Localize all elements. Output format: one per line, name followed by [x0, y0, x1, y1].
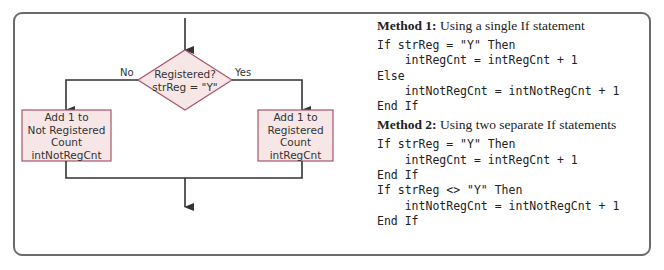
left-process-text: Add 1 to Not Registered Count intNotRegC… [22, 111, 111, 161]
merge-line [66, 161, 302, 178]
code-line: intNotRegCnt = intNotRegCnt + 1 [377, 84, 647, 99]
left-process-line-1: Add 1 to [22, 111, 111, 124]
right-process-text: Add 1 to Registered Count intRegCnt [258, 111, 333, 161]
left-process-line-2: Not Registered [22, 124, 111, 137]
yes-label: Yes [235, 67, 251, 78]
code-line: End If [377, 168, 647, 183]
method-1-heading-bold: Method 1: [377, 18, 437, 33]
method-2: Method 2: Using two separate If statemen… [377, 117, 647, 229]
code-line: intNotRegCnt = intNotRegCnt + 1 [377, 199, 647, 214]
code-line: End If [377, 214, 647, 229]
code-line: If strReg = "Y" Then [377, 137, 647, 152]
code-line: If strReg <> "Y" Then [377, 183, 647, 198]
method-1-heading: Method 1: Using a single If statement [377, 18, 647, 34]
right-process-line-4: intRegCnt [258, 149, 333, 162]
method-1-heading-rest: Using a single If statement [437, 18, 585, 33]
method-1: Method 1: Using a single If statement If… [377, 18, 647, 114]
yes-branch-arrow [232, 80, 302, 110]
method-2-heading-bold: Method 2: [377, 117, 437, 132]
code-panel: Method 1: Using a single If statement If… [377, 18, 647, 232]
right-process-line-3: Count [258, 136, 333, 149]
left-process-line-4: intNotRegCnt [22, 149, 111, 162]
right-process-line-2: Registered [258, 124, 333, 137]
method-2-heading-rest: Using two separate If statements [437, 117, 617, 132]
method-2-heading: Method 2: Using two separate If statemen… [377, 117, 647, 133]
code-line: End If [377, 99, 647, 114]
code-line: intRegCnt = intRegCnt + 1 [377, 153, 647, 168]
code-line: Else [377, 69, 647, 84]
no-branch-arrow [66, 80, 138, 110]
decision-line-1: Registered? [140, 68, 230, 81]
decision-line-2: strReg = "Y" [140, 81, 230, 94]
decision-text: Registered? strReg = "Y" [140, 68, 230, 93]
left-process-line-3: Count [22, 136, 111, 149]
code-line: If strReg = "Y" Then [377, 38, 647, 53]
right-process-line-1: Add 1 to [258, 111, 333, 124]
no-label: No [120, 67, 134, 78]
code-line: intRegCnt = intRegCnt + 1 [377, 53, 647, 68]
